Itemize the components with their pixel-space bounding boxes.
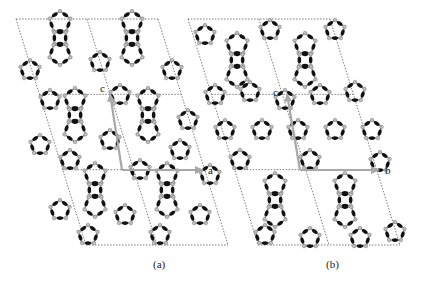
oxygen-atom	[50, 209, 55, 216]
oxygen-atom	[49, 21, 54, 28]
oxygen-atom	[90, 61, 95, 68]
oxygen-atom	[30, 144, 35, 151]
oxygen-atom	[84, 173, 89, 180]
tetrahedral-atom	[48, 56, 52, 60]
oxygen-atom	[350, 237, 355, 244]
oxygen-atom	[57, 43, 63, 47]
tetrahedral-atom	[204, 90, 208, 94]
tetrahedral-atom	[133, 210, 137, 214]
axis-label-b: b	[385, 164, 391, 176]
tetrahedral-atom	[80, 241, 84, 245]
tetrahedral-atom	[141, 108, 145, 112]
caption-b: (b)	[326, 258, 339, 271]
axis-c-b: c	[273, 86, 300, 170]
oxygen-atom	[57, 31, 63, 35]
tetrahedral-atom	[159, 195, 163, 199]
tetrahedral-atom	[93, 215, 97, 219]
oxygen-atom	[212, 101, 218, 105]
tetrahedral-atom	[160, 183, 164, 187]
tetrahedral-atom	[363, 87, 367, 91]
tetrahedral-atom	[53, 31, 57, 35]
framework-b	[194, 18, 407, 248]
tetrahedral-atom	[172, 156, 176, 160]
tetrahedral-atom	[217, 136, 221, 140]
tetrahedral-atom	[59, 155, 63, 159]
tetrahedral-atom	[248, 155, 252, 159]
tetrahedral-atom	[298, 53, 302, 57]
oxygen-atom	[334, 183, 339, 190]
tetrahedral-atom	[314, 78, 318, 82]
tetrahedral-atom	[309, 53, 313, 57]
tetrahedral-atom	[203, 23, 207, 27]
oxygen-atom	[220, 94, 225, 101]
tetrahedral-atom	[165, 161, 169, 165]
tetrahedral-atom	[293, 39, 297, 43]
oxygen-atom	[164, 195, 170, 199]
tetrahedral-atom	[214, 181, 218, 185]
oxygen-atom	[360, 91, 365, 98]
tetrahedral-atom	[260, 118, 264, 122]
tetrahedral-atom	[349, 233, 353, 237]
oxygen-atom	[107, 146, 113, 150]
tetrahedral-atom	[157, 133, 161, 137]
oxygen-atom	[190, 214, 195, 221]
tetrahedral-atom	[324, 25, 328, 29]
tetrahedral-atom	[68, 108, 72, 112]
tetrahedral-atom	[65, 43, 69, 47]
oxygen-atom	[45, 144, 50, 151]
oxygen-atom	[202, 41, 208, 45]
oxygen-atom	[332, 136, 338, 140]
tetrahedral-atom	[63, 133, 67, 137]
tetrahedral-atom	[78, 155, 82, 159]
oxygen-atom	[240, 91, 245, 98]
oxygen-atom	[267, 129, 272, 136]
tetrahedral-atom	[138, 158, 142, 162]
tetrahedral-atom	[358, 226, 362, 230]
tetrahedral-atom	[327, 36, 331, 40]
tetrahedral-atom	[141, 56, 145, 60]
oxygen-atom	[101, 173, 106, 180]
tetrahedral-atom	[333, 179, 337, 183]
tetrahedral-atom	[263, 218, 267, 222]
oxygen-atom	[195, 34, 200, 41]
crystal-structure-figure: c a (a) c b (b)	[0, 0, 426, 285]
axis-a: a	[122, 164, 213, 176]
oxygen-atom	[177, 156, 183, 160]
tetrahedral-atom	[39, 95, 43, 99]
tetrahedral-atom	[137, 43, 141, 47]
tetrahedral-atom	[118, 83, 122, 87]
tetrahedral-atom	[284, 179, 288, 183]
oxygen-atom	[97, 68, 103, 72]
oxygen-atom	[84, 200, 89, 207]
oxygen-atom	[264, 183, 269, 190]
tetrahedral-atom	[118, 135, 122, 139]
tetrahedral-atom	[208, 210, 212, 214]
oxygen-atom	[156, 200, 161, 207]
tetrahedral-atom	[303, 31, 307, 35]
tetrahedral-atom	[387, 238, 391, 242]
tetrahedral-atom	[302, 244, 306, 248]
tetrahedral-atom	[124, 43, 128, 47]
oxygen-atom	[215, 174, 220, 181]
tetrahedral-atom	[263, 179, 267, 183]
tetrahedral-atom	[38, 133, 42, 137]
tetrahedral-atom	[238, 148, 242, 152]
tetrahedral-atom	[350, 205, 354, 209]
tetrahedral-atom	[214, 125, 218, 129]
oxygen-atom	[275, 99, 280, 106]
tetrahedral-atom	[213, 83, 217, 87]
oxygen-atom	[173, 173, 178, 180]
oxygen-atom	[281, 210, 286, 217]
tetrahedral-atom	[266, 136, 270, 140]
tetrahedral-atom	[349, 193, 353, 197]
tetrahedral-atom	[314, 244, 318, 248]
tetrahedral-atom	[186, 108, 190, 112]
tetrahedral-atom	[303, 85, 307, 89]
tetrahedral-atom	[155, 208, 159, 212]
oxygen-atom	[37, 151, 43, 155]
oxygen-atom	[101, 200, 106, 207]
tetrahedral-atom	[328, 90, 332, 94]
oxygen-atom	[342, 193, 348, 197]
tetrahedral-atom	[64, 31, 68, 35]
oxygen-atom	[275, 29, 280, 36]
